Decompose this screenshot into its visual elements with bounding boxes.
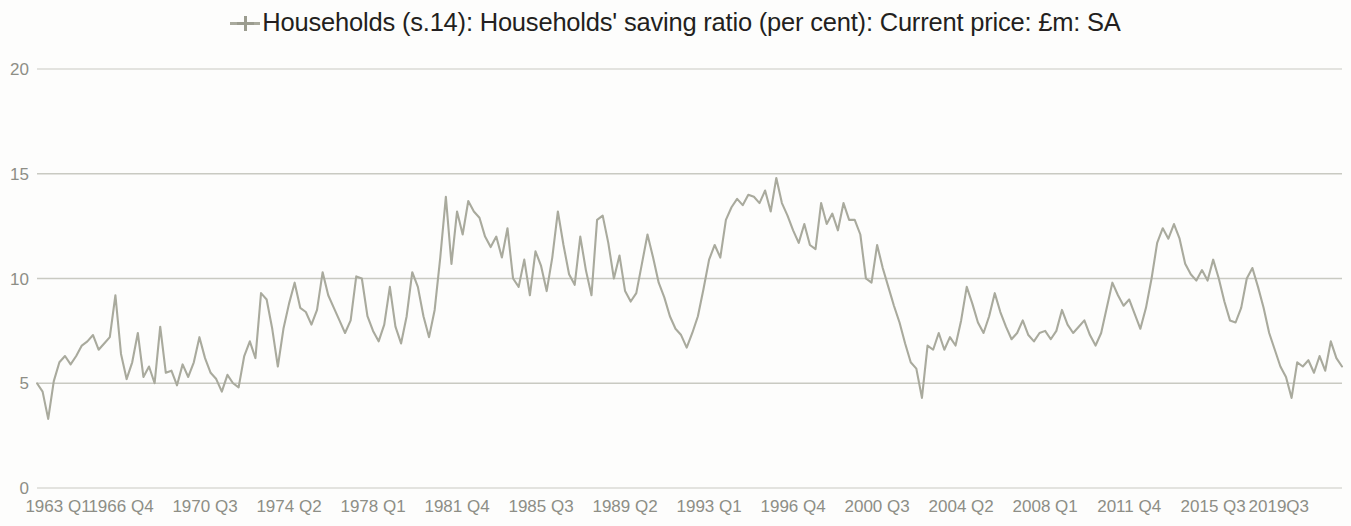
x-axis-tick-label: 1989 Q2 (592, 498, 657, 515)
y-axis-tick-label: 10 (0, 271, 29, 288)
x-axis-tick-label: 1985 Q3 (508, 498, 573, 515)
x-axis-tick-label: 1966 Q4 (88, 498, 153, 515)
x-axis: 1963 Q11966 Q41970 Q31974 Q21978 Q11981 … (0, 498, 1351, 526)
gridlines (37, 69, 1342, 488)
line-cross-marker-icon (230, 12, 260, 34)
x-axis-tick-label: 2019Q3 (1249, 498, 1310, 515)
savings-ratio-chart: Households (s.14): Households' saving ra… (0, 0, 1351, 526)
x-axis-tick-label: 2011 Q4 (1097, 498, 1161, 515)
plot-svg (37, 69, 1342, 488)
x-axis-tick-label: 1970 Q3 (172, 498, 237, 515)
x-axis-tick-label: 1993 Q1 (676, 498, 741, 515)
x-axis-tick-label: 1963 Q1 (25, 498, 90, 515)
x-axis-tick-label: 1981 Q4 (424, 498, 489, 515)
y-axis-tick-label: 0 (0, 480, 29, 497)
y-axis-tick-label: 15 (0, 166, 29, 183)
y-axis-tick-label: 20 (0, 61, 29, 78)
legend-series-label: Households (s.14): Households' saving ra… (262, 10, 1120, 36)
y-axis-tick-label: 5 (0, 375, 29, 392)
x-axis-tick-label: 1996 Q4 (760, 498, 825, 515)
chart-legend: Households (s.14): Households' saving ra… (0, 4, 1351, 42)
x-axis-tick-label: 1978 Q1 (340, 498, 405, 515)
x-axis-tick-label: 2004 Q2 (929, 498, 994, 515)
x-axis-tick-label: 2015 Q3 (1181, 498, 1246, 515)
plot-area (37, 69, 1342, 488)
x-axis-tick-label: 2008 Q1 (1013, 498, 1078, 515)
x-axis-tick-label: 2000 Q3 (845, 498, 910, 515)
x-axis-tick-label: 1974 Q2 (256, 498, 321, 515)
